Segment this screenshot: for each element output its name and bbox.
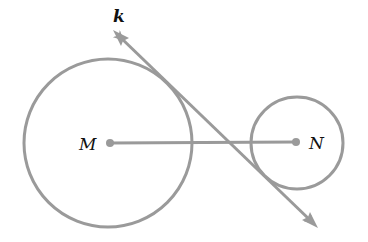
diagram-svg [0, 0, 368, 242]
point-n [292, 138, 300, 146]
segment-mn [110, 142, 296, 143]
label-m: M [79, 136, 96, 153]
diagram-canvas: k M N [0, 0, 368, 242]
tangent-line-k [120, 37, 311, 221]
label-k: k [113, 8, 125, 25]
point-m [106, 139, 114, 147]
label-n: N [309, 135, 324, 152]
